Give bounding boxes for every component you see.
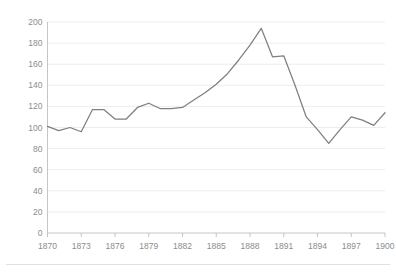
y-tick-label-0: 0 (38, 228, 43, 238)
data-line-series-1 (48, 28, 386, 143)
chart-canvas: 020406080100120140160180200 187018731876… (0, 0, 396, 274)
x-tick-label-1900: 1900 (376, 241, 395, 251)
x-tick-label-1882: 1882 (173, 241, 192, 251)
x-tick-label-1873: 1873 (72, 241, 91, 251)
x-tick-label-1870: 1870 (38, 241, 57, 251)
y-tick-label-200: 200 (28, 17, 42, 27)
y-tick-label-160: 160 (28, 59, 42, 69)
gridlines (48, 22, 386, 212)
y-tick-label-20: 20 (33, 207, 43, 217)
y-tick-label-80: 80 (33, 144, 43, 154)
x-tick-label-1894: 1894 (308, 241, 327, 251)
x-tick-label-1876: 1876 (106, 241, 125, 251)
y-tick-label-60: 60 (33, 165, 43, 175)
x-tick-label-1885: 1885 (207, 241, 226, 251)
y-tick-label-140: 140 (28, 80, 42, 90)
x-axis-tick-marks (48, 233, 386, 237)
x-tick-label-1897: 1897 (342, 241, 361, 251)
x-tick-label-1891: 1891 (274, 241, 293, 251)
y-tick-label-120: 120 (28, 101, 42, 111)
y-tick-label-40: 40 (33, 186, 43, 196)
x-tick-label-1879: 1879 (139, 241, 158, 251)
y-axis-tick-labels: 020406080100120140160180200 (28, 17, 42, 238)
y-tick-label-100: 100 (28, 123, 42, 133)
x-tick-label-1888: 1888 (241, 241, 260, 251)
line-chart: 020406080100120140160180200 187018731876… (0, 0, 396, 274)
y-tick-label-180: 180 (28, 38, 42, 48)
x-axis-tick-labels: 1870187318761879188218851888189118941897… (38, 241, 395, 251)
